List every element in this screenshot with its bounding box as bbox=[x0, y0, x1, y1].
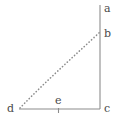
geometric-diagram: a b c d e bbox=[0, 0, 120, 125]
label-c: c bbox=[104, 103, 110, 114]
label-b: b bbox=[104, 28, 111, 39]
label-d: d bbox=[7, 103, 14, 114]
label-a: a bbox=[104, 3, 111, 14]
label-e: e bbox=[55, 95, 62, 106]
